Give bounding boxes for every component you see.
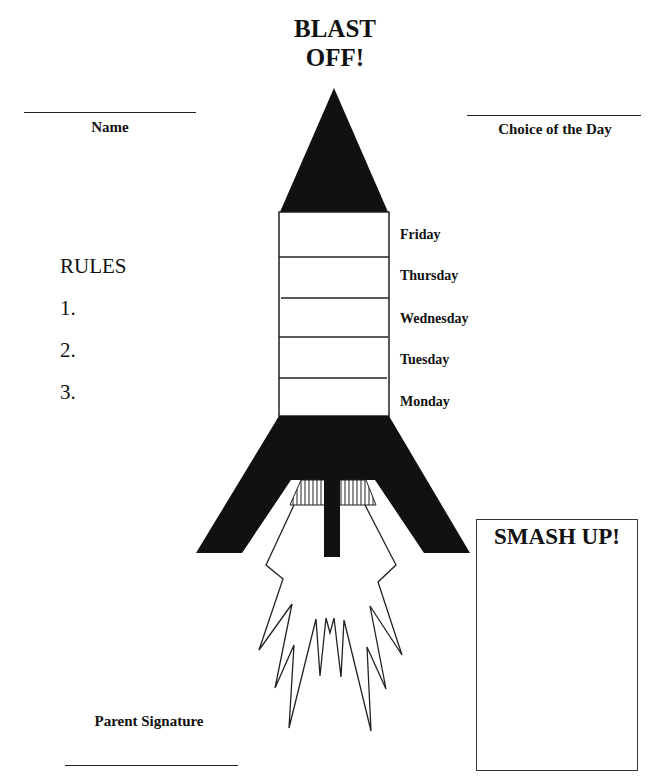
parent-signature-line[interactable] [65, 765, 238, 766]
day-wednesday: Wednesday [400, 311, 468, 327]
rocket-shaft [324, 475, 340, 557]
smash-up-box[interactable]: SMASH UP! [476, 519, 638, 771]
smash-up-title: SMASH UP! [477, 524, 637, 550]
rocket-body [279, 212, 389, 416]
day-tuesday: Tuesday [400, 352, 449, 368]
rocket-nose-cone [280, 88, 388, 212]
day-thursday: Thursday [400, 268, 458, 284]
parent-signature-label: Parent Signature [64, 713, 234, 730]
day-monday: Monday [400, 394, 450, 410]
day-friday: Friday [400, 227, 440, 243]
